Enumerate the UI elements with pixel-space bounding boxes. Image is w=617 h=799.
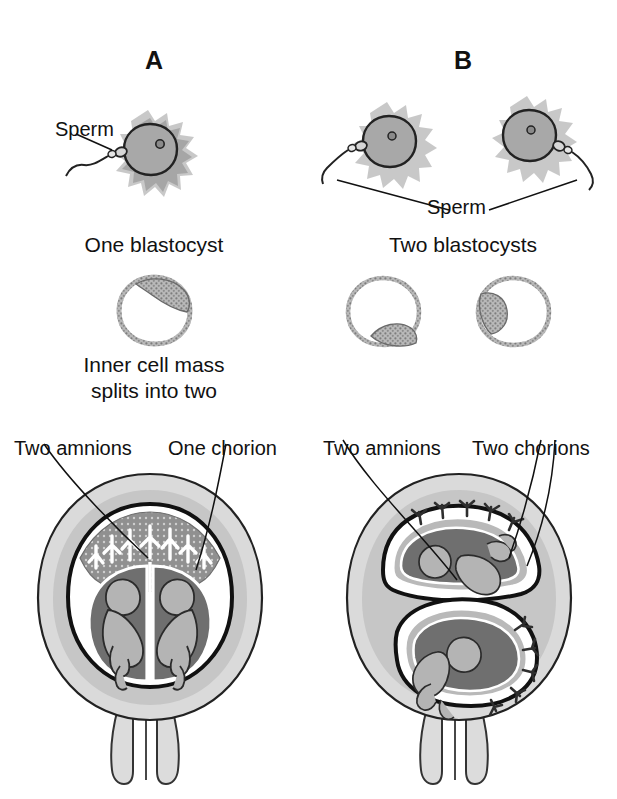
chorion-label-a: One chorion (168, 437, 277, 460)
sperm-label-a: Sperm (55, 118, 114, 141)
split-caption-line1: Inner cell mass (83, 353, 224, 376)
blastocyst (119, 277, 190, 344)
panel-b-blastocyst-stage (309, 272, 617, 352)
panel-b: B (309, 0, 617, 799)
panel-b-letter: B (309, 46, 617, 75)
panel-a-letter: A (0, 46, 308, 75)
panel-a-split-caption: Inner cell mass splits into two (0, 352, 308, 404)
panel-b-uterus-illustration (309, 462, 617, 799)
panel-a-fertilization-stage (0, 92, 308, 212)
panel-a-blastocyst-caption: One blastocyst (0, 232, 308, 258)
panel-a: A Sperm One blastocyst (0, 0, 308, 799)
ovum (124, 124, 177, 175)
sperm-label-b: Sperm (427, 196, 486, 219)
blastocyst-left (348, 278, 419, 346)
split-caption-line2: splits into two (91, 379, 217, 402)
sperm-leader-line-right (489, 180, 577, 210)
ovum-left (363, 116, 416, 167)
amnion-label-b: Two amnions (323, 437, 441, 460)
panel-b-blastocyst-caption: Two blastocysts (309, 232, 617, 258)
panel-a-uterus-illustration (0, 462, 308, 799)
amnion-label-a: Two amnions (14, 437, 132, 460)
blastocyst-right (478, 278, 549, 345)
ovum-right (503, 110, 556, 161)
chorionic-sac-lower (396, 599, 539, 719)
chorion-label-b: Two chorions (472, 437, 590, 460)
panel-a-blastocyst-stage (0, 272, 308, 348)
